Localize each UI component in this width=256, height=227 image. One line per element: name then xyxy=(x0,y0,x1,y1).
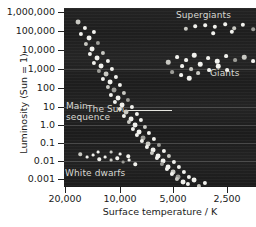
star-point xyxy=(192,178,197,183)
star-point xyxy=(157,143,161,147)
star-point xyxy=(110,159,113,162)
star-point xyxy=(187,175,191,179)
y-tick xyxy=(58,31,64,32)
star-point xyxy=(119,153,122,156)
star-point xyxy=(172,160,176,164)
star-point xyxy=(198,62,203,67)
star-point xyxy=(92,61,96,65)
star-point xyxy=(114,75,118,79)
star-point xyxy=(115,156,119,160)
y-tick xyxy=(58,50,64,51)
star-point xyxy=(104,156,107,159)
y-tick xyxy=(58,88,64,89)
y-tick-label: 0.1 xyxy=(40,138,55,148)
star-point xyxy=(135,112,139,116)
annotation-supergiants: Supergiants xyxy=(176,10,231,21)
star-point xyxy=(145,145,149,149)
the-sun-leader-line xyxy=(128,110,172,111)
star-point xyxy=(127,120,131,124)
star-point xyxy=(251,59,255,63)
y-tick xyxy=(58,69,64,70)
star-point xyxy=(118,83,122,87)
x-axis-title: Surface temperature / K xyxy=(64,206,256,217)
star-point xyxy=(97,69,101,73)
star-point xyxy=(108,80,113,85)
star-point xyxy=(224,54,228,58)
star-point xyxy=(86,156,89,159)
x-tick-label: 5,000 xyxy=(159,194,186,204)
star-point xyxy=(170,172,174,176)
star-point xyxy=(106,59,110,63)
star-point xyxy=(133,162,137,166)
star-point xyxy=(181,180,186,185)
star-point xyxy=(104,72,109,77)
star-point xyxy=(90,47,95,52)
star-point xyxy=(97,157,101,161)
star-point xyxy=(192,53,197,58)
y-tick-label: 0.01 xyxy=(34,156,55,166)
star-point xyxy=(175,55,179,59)
star-point xyxy=(160,162,164,166)
star-point xyxy=(95,56,100,61)
star-point xyxy=(215,59,220,64)
star-point xyxy=(92,154,95,157)
star-point xyxy=(211,31,215,35)
hr-diagram-figure: Main sequence Supergiants Giants White d… xyxy=(0,0,256,227)
star-point xyxy=(180,64,184,68)
star-point xyxy=(88,52,92,56)
star-point xyxy=(242,55,247,60)
star-point xyxy=(112,88,117,93)
star-point xyxy=(203,181,207,185)
star-point xyxy=(76,20,81,25)
star-point xyxy=(83,26,87,30)
star-point xyxy=(193,24,197,28)
y-tick xyxy=(58,107,64,108)
star-point xyxy=(182,170,186,174)
star-point xyxy=(203,23,207,27)
star-point xyxy=(126,154,130,158)
star-point xyxy=(79,32,83,36)
y-tick xyxy=(58,143,64,144)
star-point xyxy=(170,70,174,74)
x-tick-label: 20,000 xyxy=(48,194,81,204)
star-point xyxy=(110,151,113,154)
y-tick-label: 100 xyxy=(37,83,55,93)
star-point xyxy=(96,41,100,45)
y-tick xyxy=(58,12,64,13)
x-tick-label: 10,000 xyxy=(103,194,136,204)
star-point xyxy=(223,22,227,26)
star-point xyxy=(126,98,130,102)
star-point xyxy=(155,156,159,160)
star-point xyxy=(186,182,190,186)
y-tick-label: 0.001 xyxy=(28,174,55,184)
star-point xyxy=(167,154,171,158)
star-point xyxy=(233,58,237,62)
star-point xyxy=(139,118,143,122)
y-tick-label: 1.0 xyxy=(40,120,55,130)
star-point xyxy=(147,131,151,135)
star-point xyxy=(101,51,105,55)
star-point xyxy=(78,152,82,156)
star-point xyxy=(130,105,134,109)
star-point xyxy=(213,25,217,29)
annotation-giants: Giants xyxy=(210,68,240,79)
star-point xyxy=(187,76,192,81)
y-tick xyxy=(58,179,64,180)
x-tick-label: 2,500 xyxy=(213,194,240,204)
star-point xyxy=(87,36,92,41)
annotation-the-sun: The Sun xyxy=(87,104,124,115)
plot-area: Main sequence Supergiants Giants White d… xyxy=(64,8,256,187)
y-axis-title: Luminosity (Sun = 1) xyxy=(18,29,29,179)
star-point xyxy=(131,127,135,131)
gridline xyxy=(64,125,256,126)
star-point xyxy=(189,67,193,71)
star-point xyxy=(196,71,200,75)
star-point xyxy=(101,77,105,81)
star-point xyxy=(179,73,183,77)
star-point xyxy=(135,133,139,137)
star-point xyxy=(184,58,188,62)
star-point xyxy=(230,30,234,34)
star-point xyxy=(206,56,210,60)
y-tick-label: 10 xyxy=(43,102,55,112)
star-point xyxy=(166,60,171,65)
